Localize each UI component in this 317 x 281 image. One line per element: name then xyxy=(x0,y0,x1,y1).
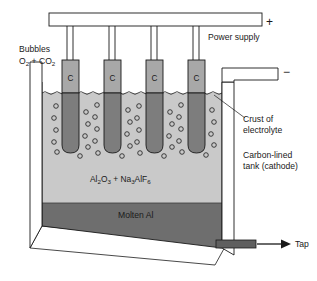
cathode-busbar-arm xyxy=(222,68,278,82)
formula-sub4: 6 xyxy=(147,178,151,185)
molten-aluminium-label: Molten Al xyxy=(118,210,153,220)
anode-assembly-4: C xyxy=(188,26,205,153)
positive-terminal-label: + xyxy=(266,15,273,29)
tap-spout xyxy=(216,240,256,248)
right-wall-shape xyxy=(222,82,234,255)
anode-label-3: C xyxy=(152,74,158,83)
anode-label-1: C xyxy=(68,74,74,83)
crust-label-line1: Crust of xyxy=(243,114,274,124)
carbon-lined-tank-label-line2: tank (cathode) xyxy=(243,161,298,171)
anode-assembly-2: C xyxy=(104,26,121,153)
anode-block-below-4 xyxy=(188,93,205,153)
formula-part3: + Na xyxy=(111,174,132,184)
crust-label-line2: electrolyte xyxy=(243,125,282,135)
power-supply-busbar xyxy=(49,13,262,26)
tank-left-wall xyxy=(30,62,42,248)
gas-plus-co: + CO xyxy=(29,56,52,66)
anode-label-4: C xyxy=(194,74,200,83)
power-supply-label: Power supply xyxy=(208,32,260,42)
anode-block-below-2 xyxy=(104,93,121,153)
diagram-canvas: C C C C xyxy=(0,0,317,281)
anode-label-2: C xyxy=(110,74,116,83)
anode-block-below-1 xyxy=(62,93,79,153)
formula-part4: AlF xyxy=(135,174,148,184)
formula-part1: Al xyxy=(90,174,98,184)
bubbles-label: Bubbles xyxy=(19,44,50,54)
tap-arrow xyxy=(257,240,291,249)
anode-assembly-1: C xyxy=(62,26,79,153)
tap-label: Tap xyxy=(295,239,309,249)
tap-arrow-head xyxy=(281,240,291,249)
anode-block-below-3 xyxy=(146,93,163,153)
negative-terminal-label: − xyxy=(283,65,290,79)
bubbles-gases-label: O2 + CO2 xyxy=(19,56,56,67)
left-wall-shape xyxy=(30,62,42,248)
anode-busbar-shape xyxy=(49,13,262,26)
carbon-lined-tank-label-line1: Carbon-lined xyxy=(243,150,292,160)
gas-co-sub: 2 xyxy=(52,60,56,67)
electrolysis-cell-diagram: C C C C xyxy=(0,0,317,281)
tap-spout-shape xyxy=(216,240,256,248)
anode-assembly-3: C xyxy=(146,26,163,153)
